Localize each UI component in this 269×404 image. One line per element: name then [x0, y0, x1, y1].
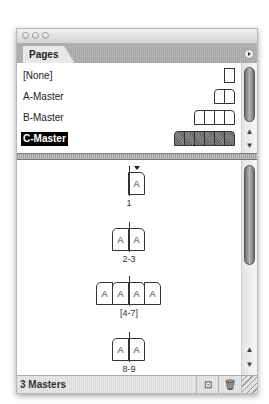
new-page-icon[interactable]: ⊡	[196, 376, 219, 393]
master-page-thumb	[224, 68, 235, 83]
spread-label: 8-9	[17, 364, 241, 374]
close-button[interactable]	[22, 32, 29, 39]
master-item[interactable]: A-Master	[19, 88, 241, 106]
page-thumbnail[interactable]: A	[128, 228, 145, 251]
pages-scroll-thumb[interactable]	[244, 165, 255, 265]
page-thumbnail[interactable]: A	[112, 228, 129, 251]
page-thumbnail[interactable]: A	[128, 282, 145, 305]
pages-list: A1AA2-3AAAA[4-7]AA8-9	[17, 160, 241, 375]
master-item[interactable]: C-Master	[19, 130, 241, 148]
page-thumbnail[interactable]: A	[144, 282, 161, 305]
tab-pages[interactable]: Pages	[23, 46, 74, 63]
master-label: C-Master	[21, 132, 68, 146]
page-thumbnail[interactable]: A	[112, 338, 129, 361]
master-label: A-Master	[21, 90, 66, 104]
current-page-marker-icon	[134, 166, 140, 170]
masters-scrollbar[interactable]: ▲ ▼	[241, 63, 257, 153]
trash-icon[interactable]: 🗑	[218, 376, 241, 393]
page-thumbnail[interactable]: A	[96, 282, 113, 305]
master-thumbnail	[175, 131, 235, 146]
page-thumbnail[interactable]: A	[128, 172, 145, 195]
masters-scroll-thumb[interactable]	[244, 67, 255, 122]
panel-status-bar: 3 Masters ⊡ 🗑	[17, 375, 257, 393]
spread-spine	[129, 166, 130, 196]
master-page-thumb	[224, 131, 235, 146]
master-thumbnail	[215, 89, 235, 104]
pages-panel-window: Pages [None]A-MasterB-MasterC-Master ▲ ▼…	[16, 28, 258, 394]
resize-grip[interactable]	[241, 376, 257, 393]
master-label: [None]	[21, 69, 54, 83]
master-page-thumb	[224, 89, 235, 104]
pages-scrollbar[interactable]: ▲ ▼	[241, 160, 257, 375]
master-thumbnail	[225, 68, 235, 83]
spread-label: 1	[17, 198, 241, 208]
spread-label: [4-7]	[17, 308, 241, 318]
window-controls	[22, 32, 49, 39]
master-page-thumb	[224, 110, 235, 125]
panel-divider[interactable]	[17, 153, 257, 160]
master-thumbnail	[195, 110, 235, 125]
master-item[interactable]: [None]	[19, 67, 241, 85]
spread-spine	[129, 332, 130, 362]
page-thumbnail[interactable]: A	[128, 338, 145, 361]
scroll-up-arrow[interactable]: ▲	[242, 125, 257, 138]
panel-tab-bar: Pages	[17, 43, 257, 63]
page-thumbnail[interactable]: A	[112, 282, 129, 305]
title-bar[interactable]	[17, 29, 257, 43]
spread-spine	[129, 222, 130, 252]
master-label: B-Master	[21, 111, 66, 125]
spread-label: 2-3	[17, 254, 241, 264]
scroll-up-arrow[interactable]: ▲	[242, 343, 257, 356]
scroll-down-arrow[interactable]: ▼	[242, 358, 257, 371]
masters-list: [None]A-MasterB-MasterC-Master	[17, 63, 241, 153]
panel-menu-icon[interactable]	[244, 49, 254, 59]
zoom-button[interactable]	[42, 32, 49, 39]
master-item[interactable]: B-Master	[19, 109, 241, 127]
scroll-down-arrow[interactable]: ▼	[242, 139, 257, 152]
minimize-button[interactable]	[32, 32, 39, 39]
spread-spine	[129, 276, 130, 306]
masters-count: 3 Masters	[20, 379, 66, 390]
